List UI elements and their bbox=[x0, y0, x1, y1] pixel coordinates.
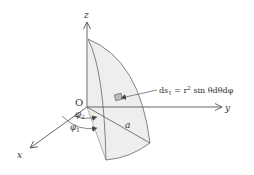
phi2-label: φ2 bbox=[75, 109, 85, 120]
y-axis-label: y bbox=[224, 103, 231, 113]
radius-label: a bbox=[125, 120, 130, 130]
spherical-coordinates-diagram: z y x O a φ2 φ1 ds1 = r2 sin θdθdφ bbox=[0, 0, 254, 175]
surface-element-formula: ds1 = r2 sin θdθdφ bbox=[159, 85, 234, 96]
z-axis-label: z bbox=[83, 10, 89, 20]
phi1-label: φ1 bbox=[70, 122, 80, 133]
origin-label: O bbox=[75, 97, 83, 108]
x-axis-label: x bbox=[17, 150, 22, 160]
